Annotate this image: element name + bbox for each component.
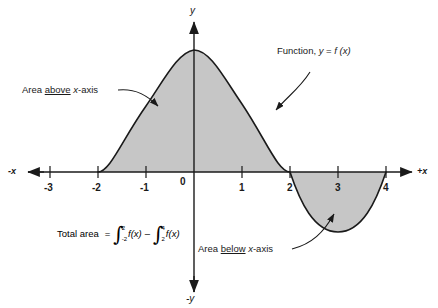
total-area-formula: Total area = ∫ 2 -2 f(x) – ∫ 4 2 f(x) <box>57 225 180 242</box>
area-below-label: Area below x-axis <box>198 244 273 254</box>
x-tick-label-4: 4 <box>383 183 389 193</box>
y-axis-positive-label: y <box>190 6 195 16</box>
area-below-suffix: -axis <box>253 243 273 254</box>
x-axis-negative-label: -x <box>8 167 16 176</box>
area-above-prefix: Area <box>22 84 45 95</box>
function-label: Function, y = f (x) <box>277 46 351 56</box>
formula-equals: = <box>105 228 111 239</box>
function-label-arg: (x) <box>340 45 351 56</box>
integral-first: ∫ 2 -2 f(x) <box>113 225 141 242</box>
x-tick-label-neg1: -1 <box>140 183 149 193</box>
area-below-prefix: Area <box>198 243 221 254</box>
integrand-arg-first: (x) <box>131 228 142 239</box>
area-below-emphasis: below <box>221 243 246 254</box>
function-label-equals: = <box>326 45 332 56</box>
x-tick-label-3: 3 <box>335 183 341 193</box>
function-label-y: y <box>319 45 324 56</box>
area-above-emphasis: above <box>45 84 71 95</box>
area-above-suffix: -axis <box>78 84 98 95</box>
formula-operator: – <box>145 228 150 239</box>
x-tick-label-neg2: -2 <box>92 183 101 193</box>
shaded-area-below-axis <box>290 172 386 232</box>
y-axis-negative-label: -y <box>186 294 194 304</box>
curve-diagram <box>0 0 438 308</box>
integral-sign-second: ∫ <box>153 226 163 242</box>
function-label-prefix: Function, <box>277 45 316 56</box>
integral-sign-first: ∫ <box>113 226 123 242</box>
formula-label: Total area <box>57 228 99 239</box>
function-label-leader <box>276 72 310 110</box>
x-tick-label-neg3: -3 <box>44 183 53 193</box>
function-label-f: f <box>334 45 337 56</box>
integrand-arg-second: (x) <box>168 228 179 239</box>
integral-second: ∫ 4 2 f(x) <box>153 225 179 242</box>
x-tick-label-1: 1 <box>239 183 245 193</box>
x-tick-label-2: 2 <box>287 183 293 193</box>
area-above-label: Area above x-axis <box>22 85 98 95</box>
x-tick-label-zero: 0 <box>180 177 186 187</box>
x-axis-positive-label: +x <box>417 167 427 176</box>
figure-canvas: -x +x y -y -3 -2 -1 0 1 2 3 4 Function, … <box>0 0 438 308</box>
